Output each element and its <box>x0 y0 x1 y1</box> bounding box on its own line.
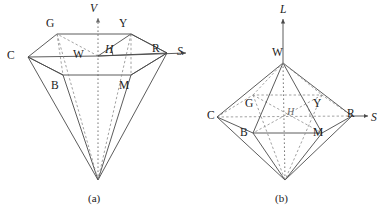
panel-a-caption: (a) <box>88 192 100 204</box>
panel-b-label-L: L <box>280 4 286 16</box>
panel-b-label-G: G <box>245 98 253 110</box>
panel-b-label-Y: Y <box>313 98 321 110</box>
panel-a-dashed-g-b <box>57 34 63 75</box>
panel-b-caption: (b) <box>275 192 288 204</box>
panel-b-label-C: C <box>207 110 215 122</box>
panel-a-label-V: V <box>90 3 97 15</box>
panel-b-hexagon-back <box>217 95 352 117</box>
panel-b-edge-w-g <box>253 63 283 95</box>
panel-b-edge-b-apex <box>253 133 285 180</box>
panel-b-label-R: R <box>347 108 355 120</box>
panel-a-edge-r-apex <box>98 53 167 180</box>
panel-b-geometry <box>217 19 368 180</box>
panel-a-label-H: H <box>105 44 113 56</box>
panel-b-edge-g-apex <box>253 95 285 180</box>
panel-a-label-B: B <box>51 80 59 92</box>
panel-b-edge-w-b <box>253 63 283 133</box>
figure-canvas: V S G Y C R W H B M (a) L S W G Y C R H … <box>0 0 391 214</box>
diagram-svg <box>0 0 391 214</box>
panel-b-label-S: S <box>371 112 377 124</box>
panel-a-label-Y: Y <box>119 18 127 30</box>
panel-a-label-C: C <box>7 50 15 62</box>
panel-b-edge-c-apex <box>217 117 285 180</box>
panel-a-label-S: S <box>177 46 183 58</box>
panel-b-label-M: M <box>313 127 323 139</box>
panel-b-edge-m-apex <box>285 133 322 180</box>
panel-b-inner-axis <box>283 63 285 180</box>
panel-a-label-M: M <box>119 80 129 92</box>
panel-a-label-W: W <box>73 49 84 61</box>
panel-b-diag-c-r <box>217 116 352 117</box>
panel-a-label-R: R <box>152 43 160 55</box>
panel-a-edge-y-r <box>131 34 167 53</box>
panel-b-label-B: B <box>240 127 248 139</box>
panel-a-label-G: G <box>46 18 54 30</box>
panel-b-label-W: W <box>272 47 283 59</box>
panel-a-edge-r-m <box>131 53 167 75</box>
panel-a-spoke-w-y <box>98 34 131 56</box>
panel-b-label-H: H <box>287 107 294 117</box>
